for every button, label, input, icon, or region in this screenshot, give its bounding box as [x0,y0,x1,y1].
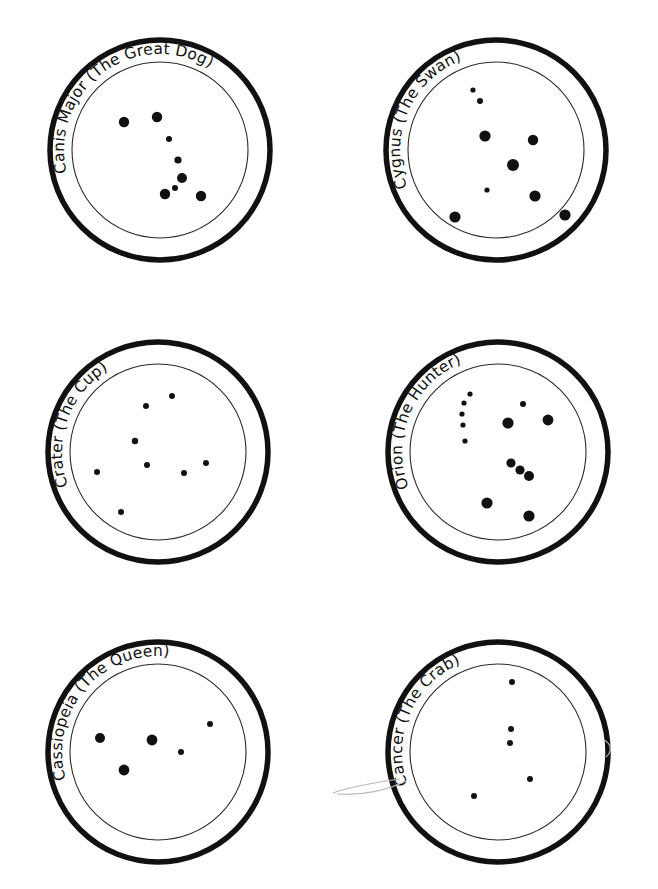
star-dot [95,733,105,743]
star-dot [484,187,489,192]
star-dot [528,135,538,145]
star-dot [174,156,181,163]
star-dot [520,401,526,407]
star-dot [479,130,490,141]
star-dot [502,417,513,428]
star-dot [507,740,513,746]
star-dot [94,469,100,475]
star-dot [459,411,464,416]
star-dot [467,391,472,396]
star-dot [508,726,514,732]
constellation-circle-cygnus: Cygnus (The Swan) [386,40,606,260]
star-dot [524,471,534,481]
constellation-circle-orion: Orion (The Hunter) [388,342,608,562]
constellation-circle-canis-major: Canis Major (The Great Dog) [50,40,270,260]
star-dot [196,191,206,201]
star-dot [471,793,477,799]
constellation-circle-cancer: Cancer (The Crab) [388,642,608,862]
star-dot [509,679,515,685]
star-dot [477,98,483,104]
star-dot [152,112,162,122]
star-dot [523,510,534,521]
star-dot [147,735,158,746]
star-dot [543,415,554,426]
star-dot [559,209,570,220]
star-dot [169,393,175,399]
star-dot [207,721,213,727]
star-dot [460,422,465,427]
star-dot [481,497,492,508]
star-dot [449,211,460,222]
star-dot [470,87,475,92]
star-dot [527,776,533,782]
star-dot [529,190,540,201]
star-dot [143,403,149,409]
star-dot [203,460,209,466]
star-dot [515,465,524,474]
star-dot [118,509,124,515]
star-dot [462,438,467,443]
star-dot [132,438,138,444]
constellation-circle-cassiopeia: Cassiopeia (The Queen) [48,642,268,862]
outer-ring [50,40,270,260]
star-dot [461,400,466,405]
star-dot [119,117,129,127]
star-dot [181,470,187,476]
star-dot [144,462,150,468]
star-dot [166,136,172,142]
constellation-circles-layer: Canis Major (The Great Dog)Cygnus (The S… [48,40,608,862]
worksheet-page: Canis Major (The Great Dog)Cygnus (The S… [0,0,658,889]
star-dot [172,185,178,191]
star-dot [160,189,170,199]
constellation-circle-crater: Crater (The Cup) [48,342,268,562]
star-dot [119,765,130,776]
constellation-sheet-canvas: Canis Major (The Great Dog)Cygnus (The S… [0,0,658,889]
star-dot [507,159,519,171]
star-dot [178,749,184,755]
outer-ring [388,342,608,562]
star-dot [506,458,515,467]
star-dot [177,173,187,183]
